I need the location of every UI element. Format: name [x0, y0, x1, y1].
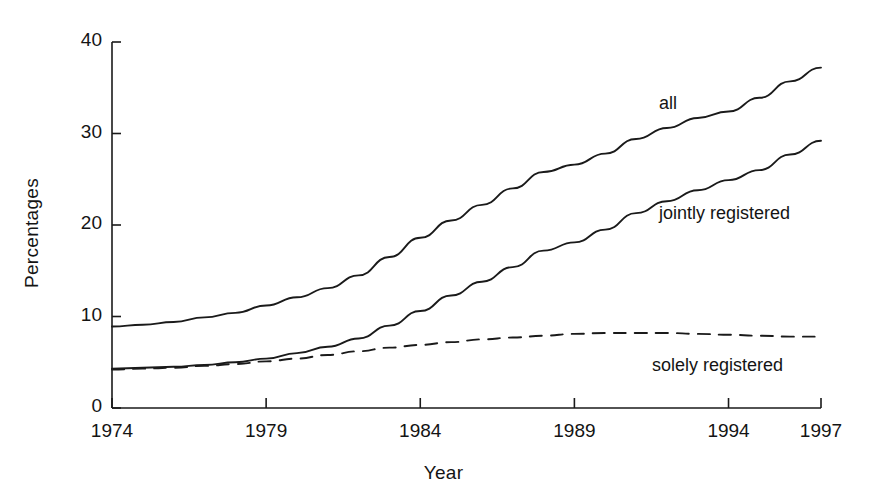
- x-tick-label: 1984: [380, 420, 460, 442]
- y-axis-title: Percentages: [21, 143, 43, 323]
- series-label-solely-registered: solely registered: [652, 355, 783, 376]
- y-tick-label: 20: [56, 212, 102, 234]
- x-tick-label: 1994: [689, 420, 769, 442]
- y-tick-label: 10: [56, 304, 102, 326]
- series-label-jointly-registered: jointly registered: [659, 203, 790, 224]
- y-tick-label: 40: [56, 29, 102, 51]
- series-label-all: all: [659, 93, 677, 114]
- y-axis-ticks: [112, 42, 121, 408]
- x-tick-label: 1979: [226, 420, 306, 442]
- x-axis-ticks: [112, 398, 821, 408]
- x-tick-label: 1989: [534, 420, 614, 442]
- series-line-jointly-registered: [112, 141, 821, 369]
- x-axis-title: Year: [0, 462, 887, 484]
- x-tick-label: 1974: [72, 420, 152, 442]
- y-tick-label: 0: [56, 395, 102, 417]
- y-tick-label: 30: [56, 121, 102, 143]
- x-tick-label: 1997: [781, 420, 861, 442]
- line-chart-figure: Percentages Year 01020304019741979198419…: [0, 0, 887, 499]
